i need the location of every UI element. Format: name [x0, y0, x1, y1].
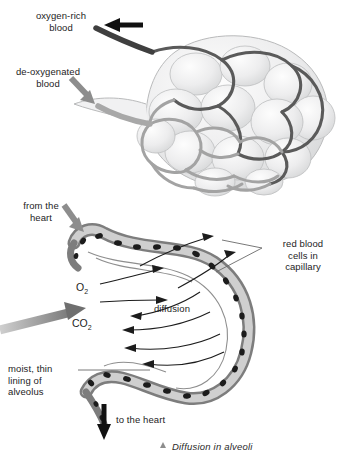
label-carbon-dioxide: CO2	[72, 317, 92, 331]
label-moist-lining: moist, thin lining of alveolus	[8, 363, 84, 398]
label-to-the-heart: to the heart	[116, 414, 196, 426]
label-red-blood-cells: red blood cells in capillary	[268, 238, 338, 273]
triangle-marker-icon	[160, 442, 166, 448]
label-diffusion: diffusion	[140, 303, 204, 315]
label-oxygen: O2	[76, 281, 88, 295]
figure-container: oxygen-rich blood de-oxygenated blood	[0, 0, 342, 456]
alveolus-lining-membrane	[88, 252, 227, 389]
figure-caption: Diffusion in alveoli	[172, 441, 253, 452]
label-from-the-heart: from the heart	[8, 200, 74, 223]
